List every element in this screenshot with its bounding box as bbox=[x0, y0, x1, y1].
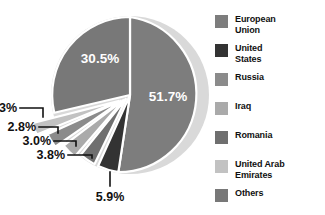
legend-swatch-icon bbox=[215, 131, 228, 144]
pie-label-51-7: 51.7% bbox=[149, 89, 187, 104]
legend-item-european-union: European Union bbox=[215, 14, 325, 38]
legend-swatch-icon bbox=[215, 15, 228, 28]
legend-item-label: Others bbox=[235, 188, 263, 199]
pie-callout-3-0: 3.0% bbox=[23, 134, 52, 148]
legend-item-others: Others bbox=[215, 188, 325, 212]
legend-swatch-icon bbox=[215, 189, 228, 202]
chart-root: 30.5% 51.7% 2.3% 2.8% 3.0% 3.8% 5.9% Eur… bbox=[0, 0, 325, 215]
legend-item-label: United States bbox=[235, 43, 262, 64]
pie-callout-5-9: 5.9% bbox=[96, 190, 125, 204]
chart-legend: European Union United States Russia Iraq… bbox=[215, 14, 325, 215]
legend-item-russia: Russia bbox=[215, 72, 325, 96]
legend-item-label: United Arab Emirates bbox=[235, 159, 285, 180]
legend-item-label: Russia bbox=[235, 72, 264, 83]
legend-swatch-icon bbox=[215, 160, 228, 173]
pie-callout-3-8: 3.8% bbox=[37, 148, 66, 162]
leader-line-2-3 bbox=[20, 108, 43, 117]
legend-swatch-icon bbox=[215, 102, 228, 115]
legend-item-iraq: Iraq bbox=[215, 101, 325, 125]
legend-item-label: European Union bbox=[235, 14, 276, 35]
legend-item-label: Iraq bbox=[235, 101, 251, 112]
legend-swatch-icon bbox=[215, 73, 228, 86]
pie-callout-2-3: 2.3% bbox=[0, 101, 17, 115]
legend-item-united-arab-emirates: United Arab Emirates bbox=[215, 159, 325, 183]
pie-callout-2-8: 2.8% bbox=[8, 120, 37, 134]
legend-item-united-states: United States bbox=[215, 43, 325, 67]
legend-swatch-icon bbox=[215, 44, 228, 57]
legend-item-romania: Romania bbox=[215, 130, 325, 154]
pie-label-30-5: 30.5% bbox=[81, 51, 119, 66]
legend-item-label: Romania bbox=[235, 130, 272, 141]
